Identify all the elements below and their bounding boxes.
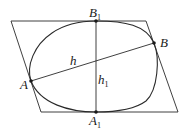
label-B: B xyxy=(160,35,168,50)
label-B1: B1 xyxy=(89,5,101,22)
point-A xyxy=(29,79,33,83)
point-B xyxy=(152,41,156,45)
label-h: h xyxy=(70,53,77,68)
closed-curve xyxy=(30,21,158,112)
diagram-canvas: B1 B A A1 h h1 xyxy=(0,0,185,132)
label-h1: h1 xyxy=(98,72,109,89)
label-A: A xyxy=(19,77,28,92)
label-A1: A1 xyxy=(88,113,101,130)
segment-h xyxy=(31,43,154,81)
parallelogram xyxy=(11,21,178,112)
